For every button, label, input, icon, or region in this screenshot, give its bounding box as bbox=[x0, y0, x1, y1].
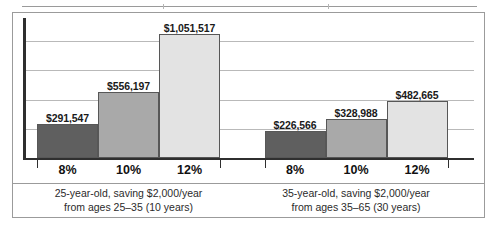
top-rule-tick-left bbox=[163, 4, 164, 9]
group-caption-0: 25-year-old, saving $2,000/year from age… bbox=[0, 186, 260, 214]
y-axis-line bbox=[23, 18, 26, 160]
group-caption-1: 35-year-old, saving $2,000/year from age… bbox=[225, 186, 488, 214]
bar-25-year-old-10% bbox=[98, 92, 159, 158]
bar-35-year-old-8% bbox=[265, 131, 326, 158]
x-axis-label-25-year-old-10%: 10% bbox=[98, 163, 159, 177]
bar-value-label-35-year-old-10%: $328,988 bbox=[312, 107, 401, 119]
chart-figure: 25-year-old, saving $2,000/year from age… bbox=[0, 0, 499, 231]
caption-1-line-1: 35-year-old, saving $2,000/year bbox=[225, 186, 488, 200]
bar-value-label-35-year-old-12%: $482,665 bbox=[373, 89, 462, 101]
bar-25-year-old-12% bbox=[159, 34, 220, 158]
bar-value-label-35-year-old-8%: $226,566 bbox=[251, 119, 340, 131]
x-axis-baseline bbox=[23, 158, 474, 160]
caption-separator bbox=[13, 183, 484, 184]
x-axis-label-35-year-old-12%: 12% bbox=[387, 163, 448, 177]
gridline-1 bbox=[26, 70, 474, 71]
x-axis-label-25-year-old-12%: 12% bbox=[159, 163, 220, 177]
top-rule-tick-right bbox=[328, 4, 329, 9]
x-axis-tick-1-0 bbox=[265, 160, 266, 168]
top-clipped-rule bbox=[22, 6, 477, 7]
bar-value-label-25-year-old-12%: $1,051,517 bbox=[145, 22, 234, 34]
x-axis-label-25-year-old-8%: 8% bbox=[37, 163, 98, 177]
caption-0-line-1: 25-year-old, saving $2,000/year bbox=[0, 186, 260, 200]
caption-1-line-2: from ages 35–65 (30 years) bbox=[225, 200, 488, 214]
x-axis-tick-1-1 bbox=[448, 160, 449, 168]
gridline-0 bbox=[26, 41, 474, 42]
bar-25-year-old-8% bbox=[37, 124, 98, 158]
caption-0-line-2: from ages 25–35 (10 years) bbox=[0, 200, 260, 214]
x-axis-tick-0-1 bbox=[220, 160, 221, 168]
x-axis-label-35-year-old-8%: 8% bbox=[265, 163, 326, 177]
x-axis-tick-0-0 bbox=[37, 160, 38, 168]
bar-value-label-25-year-old-8%: $291,547 bbox=[23, 112, 112, 124]
x-axis-label-35-year-old-10%: 10% bbox=[326, 163, 387, 177]
bar-value-label-25-year-old-10%: $556,197 bbox=[84, 80, 173, 92]
